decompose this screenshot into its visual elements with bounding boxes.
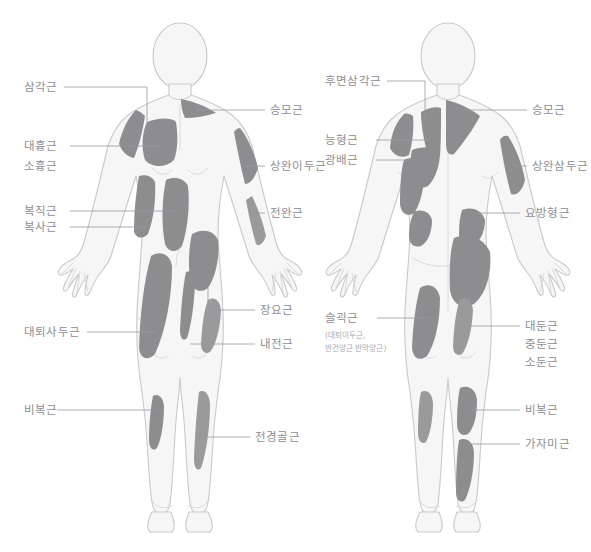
right-foot-shape	[186, 512, 212, 532]
label-quadratus-lumborum: 요방형근	[525, 206, 570, 220]
label-gluteus-maximus: 대둔근	[525, 319, 559, 333]
anterior-body-outline	[58, 23, 301, 532]
label-rhomboids: 능형근	[325, 133, 359, 147]
label-latissimus-dorsi: 광배근	[325, 153, 359, 167]
label-biceps-brachii: 상완이두근	[270, 159, 326, 173]
label-pectoralis-major: 대흉근	[24, 139, 58, 153]
label-trapezius: 승모근	[270, 103, 304, 117]
label-soleus: 가자미근	[525, 437, 570, 451]
posterior-figure-group: 후면삼각근 능형근 광배근 슬괵근 (대퇴이두근, 반건양근 반막양근) 승모근…	[325, 23, 588, 532]
posterior-body-outline	[326, 23, 569, 532]
label-gastrocnemius: 비복근	[24, 403, 58, 417]
label-forearm: 전완근	[270, 206, 304, 220]
label-gastrocnemius-back: 비복근	[525, 403, 559, 417]
label-hamstrings-sub-1: (대퇴이두근,	[325, 330, 365, 340]
head-shape-back	[421, 23, 475, 89]
label-hamstrings-sub-2: 반건양근 반막양근)	[325, 343, 386, 353]
label-deltoid: 삼각근	[24, 80, 58, 94]
label-posterior-deltoid: 후면삼각근	[325, 74, 381, 88]
diagram-canvas: 삼각근 대흉근 소흉근 복직근 복사근 대퇴사두근 비복근 승모근 상완이두근 …	[0, 0, 591, 552]
label-triceps-brachii: 상완삼두근	[532, 159, 588, 173]
label-rectus-abdominis: 복직근	[24, 204, 58, 218]
left-foot-shape-back	[416, 512, 442, 532]
label-hamstrings: 슬괵근	[325, 311, 359, 325]
label-pectoralis-minor: 소흉근	[24, 159, 58, 173]
left-foot-shape	[148, 512, 174, 532]
right-foot-shape-back	[454, 512, 480, 532]
label-tibialis-anterior: 전경골근	[255, 430, 300, 444]
label-quadriceps: 대퇴사두근	[24, 325, 80, 339]
label-gluteus-minimus: 소둔근	[525, 355, 559, 369]
label-trapezius-back: 승모근	[532, 103, 566, 117]
muscle-pectoralis-front	[143, 119, 178, 166]
label-iliopsoas: 장요근	[260, 303, 294, 317]
label-obliques: 복사근	[24, 220, 58, 234]
label-adductors: 내전근	[260, 337, 294, 351]
label-gluteus-medius: 중둔근	[525, 337, 559, 351]
anterior-figure-group: 삼각근 대흉근 소흉근 복직근 복사근 대퇴사두근 비복근 승모근 상완이두근 …	[24, 23, 326, 532]
head-shape	[153, 23, 207, 89]
muscle-anatomy-svg: 삼각근 대흉근 소흉근 복직근 복사근 대퇴사두근 비복근 승모근 상완이두근 …	[0, 0, 591, 552]
